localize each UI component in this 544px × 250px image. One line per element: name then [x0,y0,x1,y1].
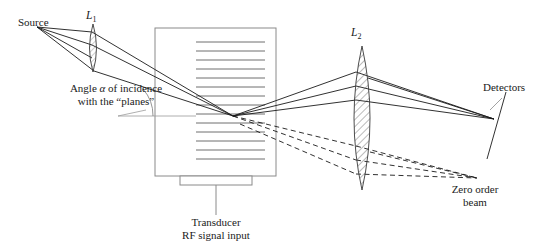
zero-order-label-line2: beam [432,196,518,209]
transducer [180,176,252,215]
zero-order-label-line1: Zero order [432,183,518,196]
angle-label-line2: with the “planes” [46,95,186,108]
angle-label-prefix: Angle [70,82,100,94]
lens-l1 [90,24,97,72]
angle-label-suffix: of incidence [105,82,162,94]
detectors-leader [490,98,502,110]
lens-l1-label: L1 [86,9,96,26]
detector-line [487,92,506,159]
lens-l1-label-sub: 1 [92,15,96,24]
detectors-label: Detectors [483,81,525,94]
detector-plane [487,92,506,159]
lens-l2-label-sub: 2 [357,32,361,41]
transducer-label: Transducer RF signal input [151,216,281,242]
diagram-canvas [0,0,544,250]
transducer-label-line2: RF signal input [151,229,281,242]
lens-l2 [354,46,370,190]
incident-rays-source-to-lens1 [37,27,94,71]
angle-label: Angle α of incidence with the “planes” [46,82,186,108]
detectors-leader-line [490,98,502,110]
angle-label-line1: Angle α of incidence [46,82,186,95]
source-label: Source [18,16,49,29]
angle-leader-line [118,110,146,116]
zero-order-label: Zero order beam [432,183,518,209]
lens-l2-shape [354,46,370,190]
zero-order-rays-lens2-to-focus [356,146,477,178]
converging-rays-lens2-to-detectors [356,72,494,119]
transducer-label-line1: Transducer [151,216,281,229]
transducer-body [180,176,252,185]
lens-l2-label: L2 [351,26,361,43]
lens-l1-shape [90,24,97,72]
acousto-optic-diagram: Source L1 L2 Angle α of incidence with t… [0,0,544,250]
